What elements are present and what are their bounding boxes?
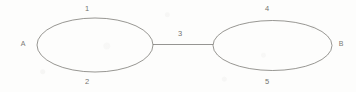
graph-canvas [0, 0, 356, 92]
edge-label-3: 3 [175, 30, 185, 38]
right-ellipse [213, 21, 332, 71]
node-label-a: A [18, 40, 28, 47]
node-label-b: B [336, 40, 346, 47]
graph-diagram: A B 1 2 3 4 5 [0, 0, 356, 92]
edge-label-4: 4 [262, 5, 272, 13]
left-ellipse [37, 18, 153, 72]
edge-label-1: 1 [82, 5, 92, 13]
edge-label-5: 5 [262, 78, 272, 86]
edge-label-2: 2 [82, 78, 92, 86]
